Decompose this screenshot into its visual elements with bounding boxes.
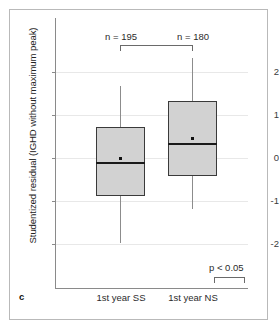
n-label-group-1: n = 195 (85, 31, 157, 42)
panel-letter: c (19, 291, 24, 302)
n-label-group-2: n = 180 (157, 31, 229, 42)
x-axis-line (55, 288, 248, 289)
p-value-label: p < 0.05 (209, 262, 244, 273)
x-axis-label-group-1: 1st year SS (82, 292, 160, 303)
x-axis-label-group-2: 1st year NS (154, 292, 232, 303)
whisker-lower-group-2 (192, 176, 193, 209)
gridline-2 (56, 72, 248, 73)
y-axis-line (55, 18, 56, 289)
y-tick-label-2: 2 (231, 67, 279, 77)
median-line-group-2 (168, 143, 217, 145)
y-axis-title: Studentized residual (IGHD without maxim… (27, 11, 38, 261)
p-value-bracket (214, 277, 245, 283)
figure-panel-c: Studentized residual (IGHD without maxim… (0, 0, 279, 332)
gridline-neg2 (56, 244, 248, 245)
median-line-group-1 (96, 162, 145, 164)
y-tick-label-0: 0 (231, 153, 279, 163)
y-tick-label-1: 1 (231, 110, 279, 120)
mean-marker-group-2 (191, 137, 194, 140)
whisker-lower-group-1 (120, 196, 121, 243)
mean-marker-group-1 (119, 157, 122, 160)
gridline-0 (56, 158, 248, 159)
group-comparison-bracket (120, 45, 193, 51)
whisker-upper-group-2 (192, 58, 193, 101)
gridline-1 (56, 115, 248, 116)
whisker-upper-group-1 (120, 86, 121, 127)
y-tick-label-neg2: -2 (231, 239, 279, 249)
y-tick-label-neg1: -1 (231, 196, 279, 206)
gridline-neg1 (56, 201, 248, 202)
